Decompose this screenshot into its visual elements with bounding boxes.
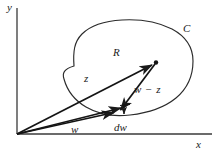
vector-w-plus-dw: [17, 108, 121, 134]
vector-label-z: z: [84, 73, 88, 84]
contour-label-c: C: [183, 23, 190, 34]
vector-label-w-minus-z: w − z: [134, 84, 161, 95]
axis-label-y: y: [7, 2, 12, 13]
vector-label-w: w: [71, 124, 78, 135]
vector-label-dw: dw: [114, 122, 127, 133]
figure-container: dw y x C R z w − z w dw: [0, 0, 218, 158]
axis-label-x: x: [196, 139, 201, 150]
region-label-r: R: [113, 47, 120, 58]
